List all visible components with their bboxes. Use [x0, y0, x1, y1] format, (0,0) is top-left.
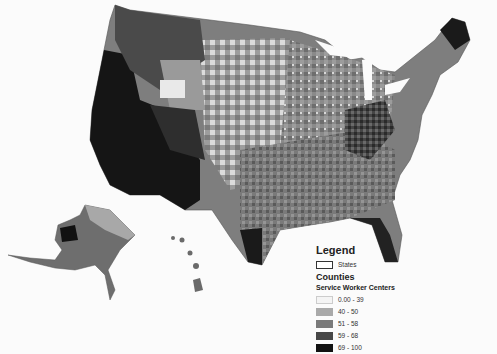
class-swatch [316, 344, 333, 352]
class-swatch [316, 308, 333, 316]
field-label: Service Worker Centers [316, 284, 436, 291]
class-label: 59 - 68 [338, 332, 358, 339]
map-legend: Legend States Counties Service Worker Ce… [316, 244, 436, 354]
legend-class-row: 59 - 68 [316, 330, 436, 341]
class-swatch [316, 320, 333, 328]
class-label: 0.00 - 39 [338, 296, 364, 303]
legend-class-row: 0.00 - 39 [316, 294, 436, 305]
legend-states-row: States [316, 259, 436, 270]
counties-label: Counties [316, 272, 436, 282]
class-label: 51 - 58 [338, 320, 358, 327]
class-label: 69 - 100 [338, 344, 362, 351]
class-swatch [316, 296, 333, 304]
states-outline-swatch [316, 261, 333, 269]
legend-class-row: 40 - 50 [316, 306, 436, 317]
legend-class-row: 69 - 100 [316, 342, 436, 353]
states-label: States [338, 261, 356, 268]
hawaii [171, 236, 203, 292]
legend-title: Legend [316, 244, 436, 256]
class-label: 40 - 50 [338, 308, 358, 315]
legend-class-row: 51 - 58 [316, 318, 436, 329]
class-swatch [316, 332, 333, 340]
